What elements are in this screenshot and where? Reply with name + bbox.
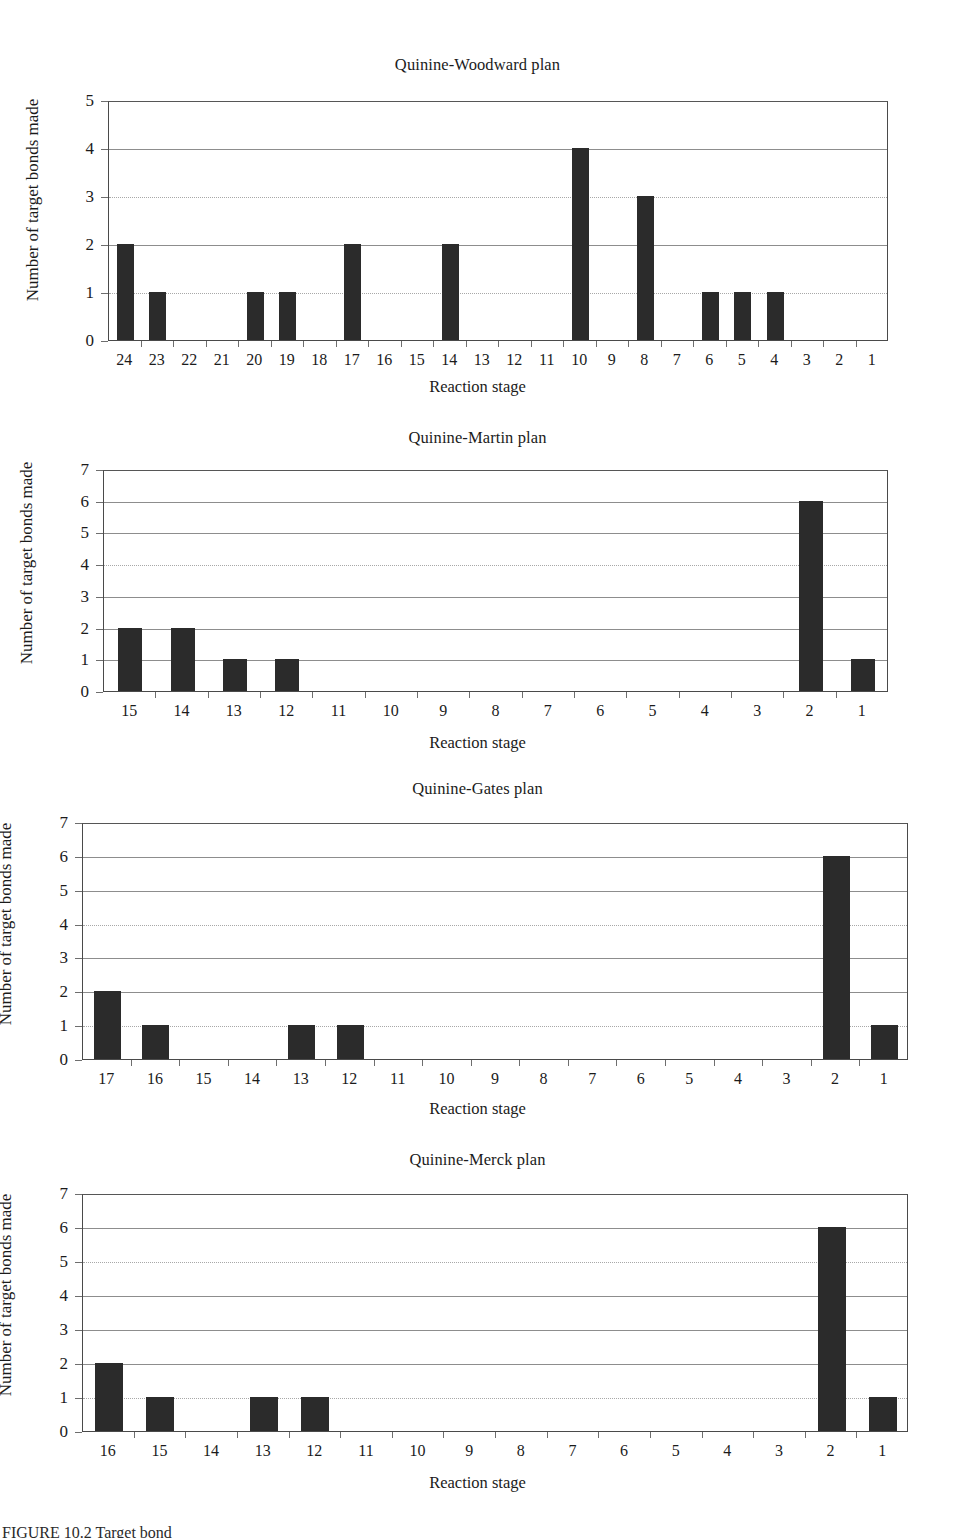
x-axis-tick-label: 6 xyxy=(705,351,713,369)
y-axis-tick-labels: 012345 xyxy=(70,101,94,341)
x-axis-tick xyxy=(628,341,629,347)
bar xyxy=(171,628,195,691)
x-axis-tick xyxy=(141,341,142,347)
chart-title: Quinine-Woodward plan xyxy=(0,55,955,75)
x-axis-label: Reaction stage xyxy=(0,1473,955,1493)
x-axis-tick-label: 1 xyxy=(878,1442,886,1460)
x-axis-tick xyxy=(228,1060,229,1066)
x-axis-tick xyxy=(753,1432,754,1438)
x-axis-tick xyxy=(650,1432,651,1438)
x-axis-tick xyxy=(661,341,662,347)
x-axis-tick xyxy=(237,1432,238,1438)
x-axis-tick xyxy=(155,692,156,698)
x-axis-tick-label: 2 xyxy=(831,1070,839,1088)
y-axis-tick-label: 6 xyxy=(60,847,69,867)
y-axis-tick-label: 7 xyxy=(81,460,90,480)
x-axis-tick-label: 10 xyxy=(410,1442,426,1460)
bar xyxy=(637,196,654,340)
y-axis-tick xyxy=(96,533,103,534)
x-axis-tick xyxy=(859,1060,860,1066)
x-axis-tick xyxy=(598,1432,599,1438)
x-axis-tick xyxy=(238,341,239,347)
y-axis-ticks xyxy=(96,470,103,692)
plot-area xyxy=(108,101,888,341)
y-axis-tick xyxy=(96,470,103,471)
plot-area-wrapper: 01234567 151413121110987654321 xyxy=(103,470,888,692)
y-axis-tick xyxy=(75,1262,82,1263)
x-axis-tick xyxy=(626,692,627,698)
x-axis-tick xyxy=(173,341,174,347)
x-axis-tick-label: 13 xyxy=(226,702,242,720)
x-axis-tick xyxy=(417,692,418,698)
x-axis-tick-label: 11 xyxy=(539,351,554,369)
x-axis-tick xyxy=(325,1060,326,1066)
x-axis-tick-label: 12 xyxy=(341,1070,357,1088)
x-axis-tick-label: 4 xyxy=(723,1442,731,1460)
x-axis-tick xyxy=(185,1432,186,1438)
x-axis-tick xyxy=(179,1060,180,1066)
y-axis-tick-label: 1 xyxy=(81,650,90,670)
x-axis-tick-label: 9 xyxy=(439,702,447,720)
x-axis-tick-label: 3 xyxy=(803,351,811,369)
y-axis-tick-label: 1 xyxy=(60,1016,69,1036)
bar xyxy=(142,1025,169,1059)
chart-panel-quinine-martin: Quinine-Martin plan Number of target bon… xyxy=(0,428,955,773)
bar xyxy=(337,1025,364,1059)
x-axis-tick-label: 5 xyxy=(672,1442,680,1460)
x-axis-tick-label: 22 xyxy=(181,351,197,369)
x-axis-tick-label: 13 xyxy=(255,1442,271,1460)
x-axis-tick-label: 8 xyxy=(640,351,648,369)
x-axis-tick-label: 9 xyxy=(608,351,616,369)
y-axis-tick xyxy=(96,660,103,661)
chart-title: Quinine-Martin plan xyxy=(0,428,955,448)
y-axis-tick-labels: 01234567 xyxy=(44,823,68,1060)
x-axis-tick-label: 13 xyxy=(474,351,490,369)
y-axis-ticks xyxy=(75,1194,82,1432)
x-axis-tick-label: 20 xyxy=(246,351,262,369)
x-axis-tick-label: 6 xyxy=(596,702,604,720)
x-axis-tick-labels: 151413121110987654321 xyxy=(103,702,888,724)
x-axis-tick-label: 10 xyxy=(383,702,399,720)
x-axis-tick xyxy=(443,1432,444,1438)
x-axis-tick xyxy=(665,1060,666,1066)
y-axis-tick-label: 5 xyxy=(81,523,90,543)
bar xyxy=(869,1397,897,1431)
bar xyxy=(118,628,142,691)
y-axis-tick-label: 1 xyxy=(86,283,95,303)
bar-series xyxy=(83,824,907,1059)
y-axis-tick xyxy=(75,1432,82,1433)
x-axis-tick-label: 5 xyxy=(738,351,746,369)
x-axis-tick xyxy=(568,1060,569,1066)
x-axis-tick-label: 15 xyxy=(195,1070,211,1088)
y-axis-tick-label: 2 xyxy=(81,619,90,639)
x-axis-tick-label: 12 xyxy=(506,351,522,369)
x-axis-tick-label: 17 xyxy=(344,351,360,369)
y-axis-label: Number of target bonds made xyxy=(17,438,37,688)
x-axis-label: Reaction stage xyxy=(0,1099,955,1119)
x-axis-tick xyxy=(731,692,732,698)
y-axis-tick xyxy=(101,197,108,198)
x-axis-tick-label: 7 xyxy=(588,1070,596,1088)
y-axis-tick xyxy=(101,245,108,246)
x-axis-tick-label: 7 xyxy=(568,1442,576,1460)
bar xyxy=(279,292,296,340)
bar xyxy=(823,856,850,1059)
x-axis-tick-label: 4 xyxy=(701,702,709,720)
x-axis-tick xyxy=(365,692,366,698)
bar-series xyxy=(109,102,887,340)
x-axis-tick xyxy=(498,341,499,347)
bar xyxy=(799,501,823,691)
y-axis-tick xyxy=(75,1330,82,1331)
y-axis-tick xyxy=(75,1194,82,1195)
x-axis-tick-label: 2 xyxy=(827,1442,835,1460)
x-axis-label: Reaction stage xyxy=(0,733,955,753)
y-axis-tick xyxy=(75,1026,82,1027)
x-axis-ticks xyxy=(108,341,888,348)
x-axis-tick-labels: 16151413121110987654321 xyxy=(82,1442,908,1464)
y-axis-tick xyxy=(75,1398,82,1399)
y-axis-tick-label: 0 xyxy=(86,331,95,351)
x-axis-tick-label: 1 xyxy=(858,702,866,720)
x-axis-tick xyxy=(693,341,694,347)
plot-area xyxy=(82,1194,908,1432)
